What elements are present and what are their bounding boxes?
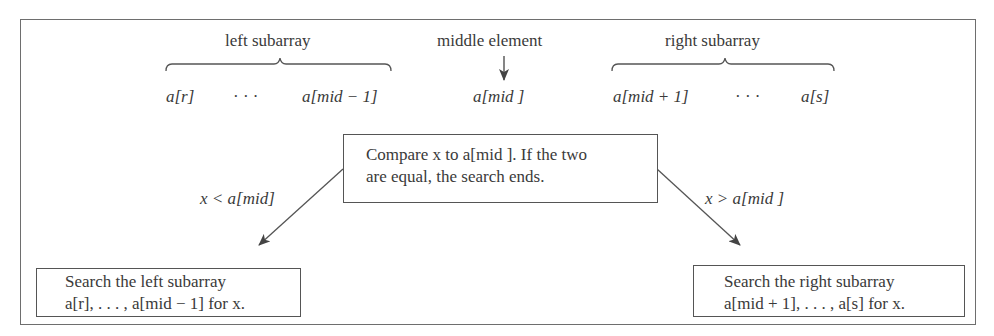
left-subarray-label: left subarray xyxy=(225,32,310,49)
array-right-start: a[mid + 1] xyxy=(613,88,689,105)
search-right-line1: Search the right subarray xyxy=(724,271,964,293)
search-left-line2: a[r], . . . , a[mid − 1] for x. xyxy=(65,293,300,315)
compare-box-line2: are equal, the search ends. xyxy=(366,166,657,188)
array-left-dots: · · · xyxy=(233,88,258,105)
left-condition-label: x < a[mid] xyxy=(200,190,275,207)
search-left-line1: Search the left subarray xyxy=(65,271,300,293)
middle-element-label: middle element xyxy=(437,32,542,49)
right-subarray-label: right subarray xyxy=(665,32,760,49)
array-right-dots: · · · xyxy=(735,88,760,105)
right-condition-label: x > a[mid ] xyxy=(705,190,784,207)
array-left-end: a[mid − 1] xyxy=(302,88,378,105)
array-right-end: a[s] xyxy=(801,88,829,105)
array-middle: a[mid ] xyxy=(473,88,524,105)
search-left-box: Search the left subarray a[r], . . . , a… xyxy=(36,268,301,317)
left-subarray-brace xyxy=(166,58,391,71)
array-left-start: a[r] xyxy=(166,88,194,105)
compare-box-line1: Compare x to a[mid ]. If the two xyxy=(366,144,657,166)
right-subarray-brace xyxy=(612,58,834,71)
search-right-box: Search the right subarray a[mid + 1], . … xyxy=(693,265,965,317)
compare-box: Compare x to a[mid ]. If the two are equ… xyxy=(343,134,658,203)
search-right-line2: a[mid + 1], . . . , a[s] for x. xyxy=(724,293,964,315)
